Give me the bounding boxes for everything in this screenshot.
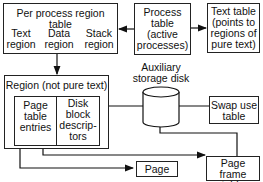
region-title: Region (not pure text) [5,80,108,91]
page-table-entries: Page table entries [14,96,57,146]
arrow-entries-to-page [20,147,133,168]
stack-region: Stack region [82,28,116,50]
per-process-region-table: Per process region table Text region Dat… [3,3,118,54]
data-region: Data region [42,28,76,50]
text-region: Text region [6,28,36,50]
disk-block-descriptors: Disk block descrip- tors [56,96,100,146]
process-table: Process table (active processes) [134,3,191,55]
page: Page [136,161,178,177]
text-table: Text table (points to regions of pure te… [207,3,260,53]
page-frame-table: Page frame table [206,156,260,181]
disk-cylinder-icon [143,87,179,127]
auxiliary-storage-disk-label: Auxiliary storage disk [130,62,192,84]
swap-use-table: Swap use table [209,96,259,124]
